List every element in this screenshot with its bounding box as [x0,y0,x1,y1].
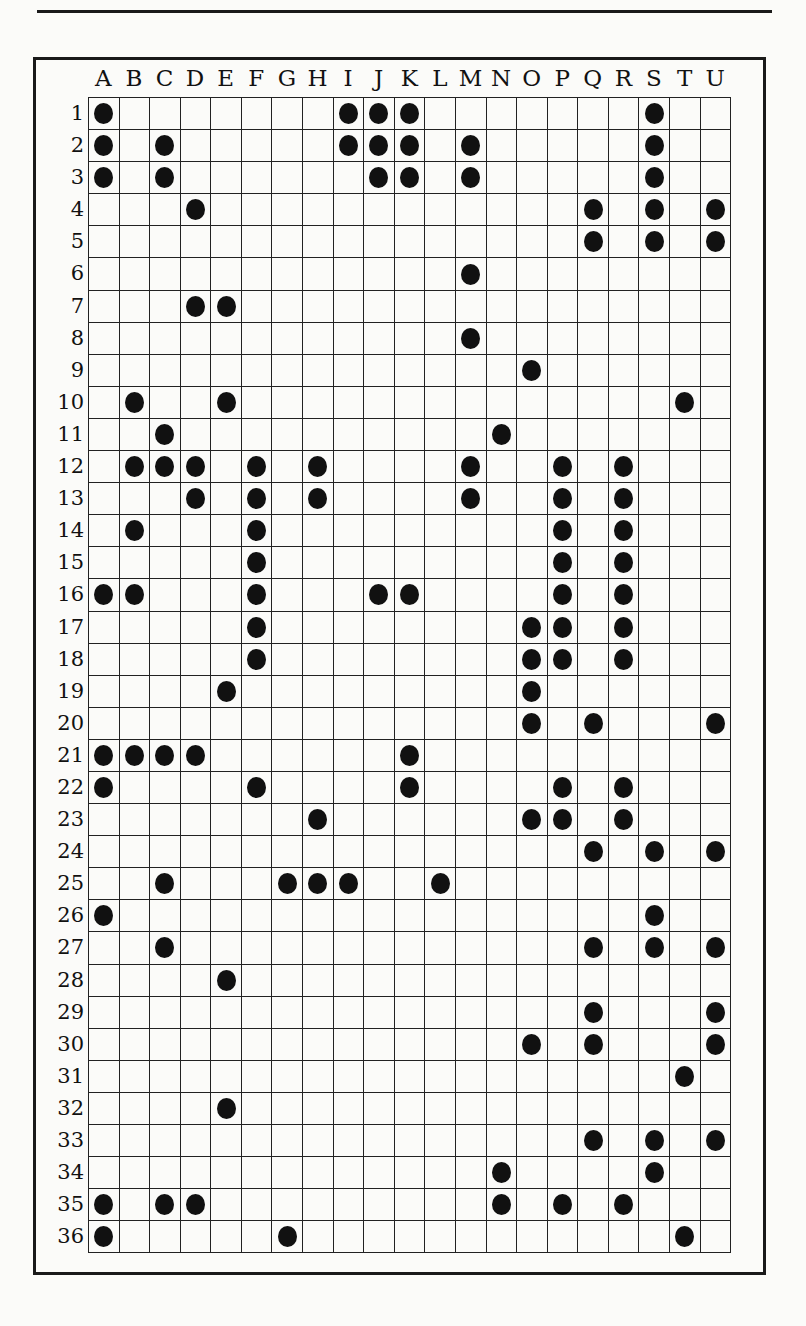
grid-cell [456,1029,487,1061]
grid-cell [181,355,212,387]
grid-cell [89,997,120,1029]
grid-cell [364,676,395,708]
grid-cell [548,868,579,900]
grid-cell [609,162,640,194]
grid-cell [517,1157,548,1189]
grid-cell [517,1221,548,1253]
grid-cell [89,708,120,740]
grid-cell [395,579,426,611]
grid-cell [578,740,609,772]
grid-cell [395,1093,426,1125]
grid-cell [150,997,181,1029]
grid-cell [364,836,395,868]
grid-cell [548,451,579,483]
grid-cell [303,900,334,932]
grid-cell [303,483,334,515]
grid-cell [89,483,120,515]
grid-cell [334,965,365,997]
grid-cell [517,612,548,644]
dot-marker [522,649,541,670]
grid-cell [364,932,395,964]
grid-cell [395,323,426,355]
grid-cell [425,932,456,964]
grid-cell [120,98,151,130]
grid-cell [578,1093,609,1125]
dot-marker [584,937,603,958]
grid-cell [395,98,426,130]
grid-cell [242,740,273,772]
row-label: 22 [40,771,84,803]
grid-cell [639,932,670,964]
grid-cell [425,1093,456,1125]
dot-marker [94,584,113,605]
grid-cell [456,900,487,932]
grid-cell [364,1061,395,1093]
grid-cell [242,355,273,387]
dot-marker [247,617,266,638]
dot-marker [614,520,633,541]
grid-cell [395,740,426,772]
grid-cell [150,740,181,772]
grid-cell [670,1221,701,1253]
row-label: 19 [40,675,84,707]
grid-cell [211,323,242,355]
grid-cell [609,515,640,547]
grid-cell [517,1093,548,1125]
grid-cell [120,1189,151,1221]
grid-cell [334,355,365,387]
grid-cell [395,130,426,162]
grid-cell [272,515,303,547]
dot-marker [584,231,603,252]
grid-row [89,387,731,419]
dot-marker [94,1226,113,1247]
dot-marker [553,584,572,605]
grid-cell [89,98,120,130]
grid-cell [272,997,303,1029]
grid-cell [609,676,640,708]
grid-cell [150,98,181,130]
grid-cell [487,130,518,162]
grid-cell [609,772,640,804]
grid-cell [639,676,670,708]
grid-cell [364,547,395,579]
dot-marker [278,1226,297,1247]
grid-cell [425,740,456,772]
grid-cell [181,547,212,579]
grid-cell [578,226,609,258]
grid-cell [578,291,609,323]
grid-cell [211,515,242,547]
grid-cell [272,451,303,483]
dot-marker [400,167,419,188]
grid-cell [181,291,212,323]
grid-cell [578,644,609,676]
grid-cell [211,836,242,868]
grid-cell [701,579,732,611]
grid-cell [89,676,120,708]
grid-cell [181,226,212,258]
grid-cell [150,323,181,355]
grid-cell [670,708,701,740]
grid-cell [242,1093,273,1125]
grid-cell [487,515,518,547]
grid-cell [609,483,640,515]
grid-row [89,162,731,194]
grid-cell [548,162,579,194]
grid-cell [89,258,120,290]
grid-cell [517,644,548,676]
grid-cell [670,836,701,868]
grid-cell [150,708,181,740]
grid-cell [578,419,609,451]
grid-cell [548,355,579,387]
grid-cell [395,258,426,290]
grid-cell [517,868,548,900]
dot-marker [492,1194,511,1215]
dot-marker [125,520,144,541]
grid-cell [487,997,518,1029]
grid-cell [639,162,670,194]
grid-row [89,676,731,708]
grid-cell [242,644,273,676]
grid-cell [303,676,334,708]
grid-cell [609,1029,640,1061]
grid-cell [181,483,212,515]
grid-cell [120,997,151,1029]
